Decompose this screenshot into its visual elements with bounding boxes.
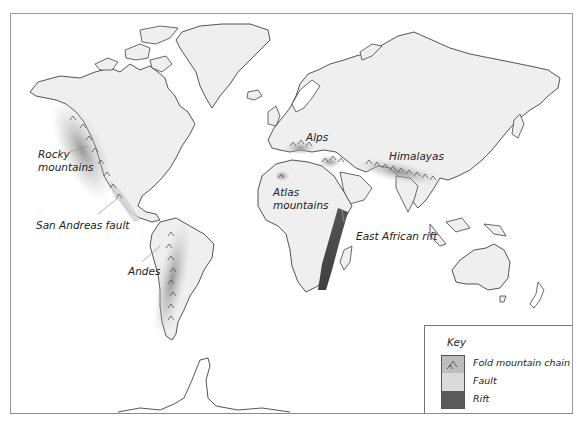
label-atlas-line2: mountains [273, 199, 329, 212]
fold-mountain-icon [441, 355, 465, 373]
label-rocky-mountains: Rocky mountains [38, 148, 94, 174]
label-east-african-rift: East African rift [356, 230, 437, 243]
map-legend: Key Fold mountain chain Fault Rift [424, 325, 572, 413]
label-san-andreas-fault: San Andreas fault [36, 219, 129, 232]
label-rocky-line1: Rocky [38, 148, 94, 161]
label-atlas-mountains: Atlas mountains [273, 186, 329, 212]
legend-label-fold: Fold mountain chain [473, 357, 570, 368]
australia [452, 244, 510, 290]
legend-item-fold: Fold mountain chain [441, 355, 571, 373]
legend-title: Key [447, 336, 466, 348]
label-himalayas: Himalayas [389, 150, 444, 163]
atlas-fold-zone [274, 170, 290, 182]
label-alps: Alps [306, 131, 328, 144]
label-atlas-line1: Atlas [273, 186, 329, 199]
label-rocky-line2: mountains [38, 161, 94, 174]
legend-item-rift: Rift [441, 391, 571, 409]
legend-label-fault: Fault [473, 375, 497, 386]
map-baseline [10, 413, 573, 414]
rift-swatch-icon [441, 391, 465, 409]
antarctica [118, 358, 290, 412]
legend-item-fault: Fault [441, 373, 571, 391]
legend-label-rift: Rift [473, 393, 489, 404]
fault-swatch-icon [441, 373, 465, 391]
label-andes: Andes [128, 265, 160, 278]
north-america [30, 64, 195, 222]
